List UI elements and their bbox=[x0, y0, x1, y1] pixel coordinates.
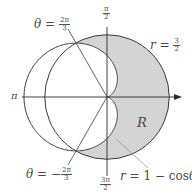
axis-label-three-pi-over-2: 3π2 bbox=[100, 176, 111, 192]
ray-eq: = bbox=[37, 167, 47, 181]
eq-sign: = bbox=[160, 38, 170, 52]
ray-sign: − bbox=[51, 167, 61, 181]
axis-arrow-icon bbox=[174, 94, 182, 100]
axis-label-pi-over-2: π2 bbox=[103, 5, 110, 21]
ray-var: θ bbox=[34, 17, 41, 31]
polar-diagram bbox=[0, 0, 192, 195]
ray-eq: = bbox=[45, 17, 55, 31]
eq-lhs: r bbox=[120, 169, 126, 183]
region-label-r: R bbox=[137, 116, 147, 129]
frac-denominator: 3 bbox=[61, 25, 67, 32]
ray-label-two-pi-thirds: θ = 2π3 bbox=[34, 17, 70, 32]
cardioid-equation-label: r = 1 − cosθ bbox=[120, 170, 192, 182]
ray-label-neg-two-pi-thirds: θ = −2π3 bbox=[26, 167, 72, 182]
circle-equation-label: r = 32 bbox=[150, 38, 180, 53]
frac-denominator: 2 bbox=[103, 14, 109, 21]
axis-label-pi: π bbox=[11, 91, 18, 101]
frac-denominator: 2 bbox=[173, 46, 179, 53]
frac-denominator: 3 bbox=[63, 175, 69, 182]
eq-sign: = bbox=[130, 169, 140, 183]
eq-var: θ bbox=[189, 169, 192, 183]
eq-lhs: r bbox=[150, 38, 156, 52]
frac-denominator: 2 bbox=[102, 185, 108, 192]
ray-var: θ bbox=[26, 167, 33, 181]
eq-rhs: 1 − cos bbox=[143, 169, 188, 183]
